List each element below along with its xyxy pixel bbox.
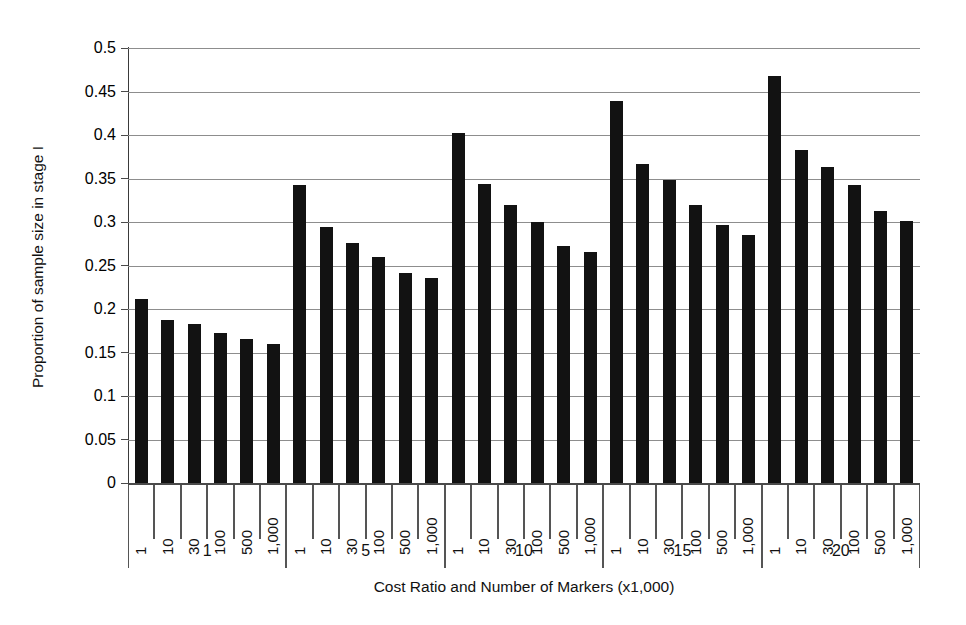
y-axis-tick-label: 0.35 bbox=[42, 170, 116, 188]
y-axis-tick-mark bbox=[121, 439, 128, 440]
x-axis-marker-cell: 1 bbox=[445, 485, 471, 539]
bar bbox=[900, 221, 913, 483]
y-axis-tick-label: 0.45 bbox=[42, 83, 116, 101]
bar bbox=[610, 101, 623, 483]
x-axis-marker-cell: 30 bbox=[814, 485, 840, 539]
x-axis-marker-cell: 500 bbox=[234, 485, 260, 539]
bar bbox=[161, 320, 174, 483]
bar bbox=[531, 222, 544, 483]
x-axis-group-labels: 15101520 bbox=[128, 538, 920, 568]
bar bbox=[346, 243, 359, 483]
y-axis-tick-label: 0.25 bbox=[42, 257, 116, 275]
gridline bbox=[128, 92, 920, 93]
x-axis-marker-cell: 500 bbox=[867, 485, 893, 539]
bar bbox=[399, 273, 412, 483]
y-axis-tick-label: 0 bbox=[42, 474, 116, 492]
bar bbox=[425, 278, 438, 483]
x-axis-marker-cell: 100 bbox=[524, 485, 550, 539]
y-axis-tick-label: 0.15 bbox=[42, 344, 116, 362]
bar bbox=[689, 205, 702, 483]
bar bbox=[504, 205, 517, 483]
bar bbox=[267, 344, 280, 483]
x-axis-marker-cell: 1 bbox=[603, 485, 629, 539]
y-axis-tick-mark bbox=[121, 396, 128, 397]
x-axis-marker-cell: 1,000 bbox=[418, 485, 444, 539]
y-axis-tick-mark bbox=[121, 91, 128, 92]
gridline bbox=[128, 48, 920, 49]
x-axis-marker-cell: 10 bbox=[471, 485, 497, 539]
bar bbox=[716, 225, 729, 483]
bar bbox=[584, 252, 597, 483]
bar bbox=[320, 227, 333, 483]
x-axis-group-label: 15 bbox=[603, 538, 761, 568]
x-axis-marker-cell: 500 bbox=[550, 485, 576, 539]
y-axis-tick-mark bbox=[121, 483, 128, 484]
plot-area bbox=[128, 48, 920, 483]
bar bbox=[214, 333, 227, 483]
x-axis-marker-cell: 100 bbox=[682, 485, 708, 539]
bar bbox=[663, 180, 676, 483]
bar bbox=[293, 185, 306, 483]
x-axis-marker-cell: 100 bbox=[366, 485, 392, 539]
x-axis-marker-cell: 100 bbox=[207, 485, 233, 539]
y-axis-tick-mark bbox=[121, 178, 128, 179]
x-axis-marker-cell: 100 bbox=[841, 485, 867, 539]
x-axis-marker-cell: 1 bbox=[286, 485, 312, 539]
bar bbox=[478, 184, 491, 483]
bar bbox=[768, 76, 781, 483]
x-axis-marker-cell: 1,000 bbox=[260, 485, 286, 539]
bar bbox=[452, 133, 465, 483]
y-axis-tick-label: 0.3 bbox=[42, 213, 116, 231]
y-axis-tick-mark bbox=[121, 265, 128, 266]
bar bbox=[557, 246, 570, 484]
x-axis-marker-cell: 30 bbox=[656, 485, 682, 539]
y-axis-tick-mark bbox=[121, 309, 128, 310]
x-axis-group-label: 5 bbox=[286, 538, 444, 568]
x-axis-group-label: 1 bbox=[128, 538, 286, 568]
y-axis-tick-mark bbox=[121, 352, 128, 353]
x-axis-marker-cell: 500 bbox=[709, 485, 735, 539]
x-axis-marker-cell: 1 bbox=[762, 485, 788, 539]
bar bbox=[135, 299, 148, 483]
bar bbox=[874, 211, 887, 483]
bar bbox=[188, 324, 201, 483]
bar bbox=[372, 257, 385, 483]
x-axis-marker-cell: 30 bbox=[181, 485, 207, 539]
y-axis-tick-mark bbox=[121, 135, 128, 136]
x-axis-marker-cell: 1,000 bbox=[894, 485, 920, 539]
x-axis-marker-cell: 30 bbox=[498, 485, 524, 539]
x-axis-marker-cell: 10 bbox=[630, 485, 656, 539]
y-axis-tick-label: 0.1 bbox=[42, 387, 116, 405]
bar bbox=[848, 185, 861, 483]
x-axis-marker-labels: 110301005001,000110301005001,00011030100… bbox=[128, 484, 920, 538]
x-axis-group-label: 10 bbox=[445, 538, 603, 568]
x-axis-marker-cell: 10 bbox=[788, 485, 814, 539]
bar-chart: Proportion of sample size in stage I 0.5… bbox=[0, 0, 966, 625]
y-axis-tick-label: 0.2 bbox=[42, 300, 116, 318]
y-axis-tick-label: 0.05 bbox=[42, 431, 116, 449]
bar bbox=[821, 167, 834, 483]
gridline bbox=[128, 135, 920, 136]
x-axis-title: Cost Ratio and Number of Markers (x1,000… bbox=[128, 578, 920, 596]
x-axis-marker-cell: 30 bbox=[339, 485, 365, 539]
bar bbox=[636, 164, 649, 483]
y-axis-tick-mark bbox=[121, 222, 128, 223]
x-axis-marker-cell: 1,000 bbox=[577, 485, 603, 539]
x-axis-group-label: 20 bbox=[762, 538, 920, 568]
y-axis-tick-label: 0.4 bbox=[42, 126, 116, 144]
x-axis-marker-cell: 500 bbox=[392, 485, 418, 539]
bar bbox=[742, 235, 755, 483]
x-axis-marker-cell: 1 bbox=[128, 485, 154, 539]
bar bbox=[795, 150, 808, 483]
x-axis-marker-cell: 10 bbox=[154, 485, 180, 539]
y-axis-tick-label: 0.5 bbox=[42, 39, 116, 57]
y-axis-tick-mark bbox=[121, 48, 128, 49]
bar bbox=[240, 339, 253, 483]
x-axis-marker-cell: 10 bbox=[313, 485, 339, 539]
x-axis-marker-cell: 1,000 bbox=[735, 485, 761, 539]
